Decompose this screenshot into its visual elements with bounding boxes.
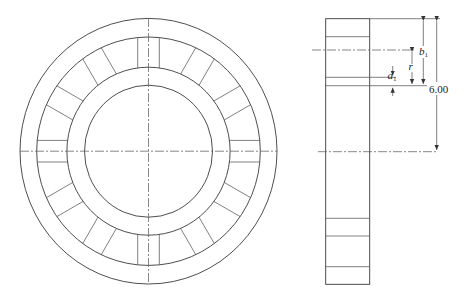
block-edge: [101, 228, 116, 254]
block-edge: [199, 59, 214, 85]
block-edge: [199, 217, 214, 243]
block-edge: [101, 48, 116, 74]
block-edge: [83, 59, 98, 85]
block-edge: [224, 105, 250, 120]
block-edge: [46, 182, 72, 197]
block-edge: [214, 86, 240, 101]
label-b1: b1: [419, 45, 429, 59]
block-edge: [181, 228, 196, 254]
block-edge: [224, 182, 250, 197]
block-edge: [57, 201, 83, 216]
label-a1: a1: [388, 69, 398, 83]
label-r: r: [409, 60, 414, 72]
block-edge: [57, 86, 83, 101]
bearing-drawing: b1 r a1 6.00: [0, 0, 465, 298]
block-edge: [181, 48, 196, 74]
block-edge: [83, 217, 98, 243]
front-view: [20, 18, 277, 284]
block-edge: [46, 105, 72, 120]
label-overall-dimension: 6.00: [429, 83, 449, 95]
block-edge: [214, 201, 240, 216]
side-view: b1 r a1 6.00: [312, 19, 449, 285]
